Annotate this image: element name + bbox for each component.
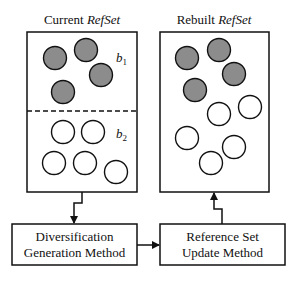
open-solution-circle: [52, 121, 75, 144]
open-solution-circle: [43, 152, 66, 175]
filled-solution-circle: [176, 47, 199, 70]
reference-update-line1: Reference Set: [186, 229, 259, 244]
arrow-to-diversification: [74, 192, 82, 223]
open-solution-circle: [223, 136, 246, 159]
filled-solution-circle: [223, 63, 246, 86]
filled-solution-circle: [184, 79, 207, 102]
reference-update-line2: Update Method: [182, 245, 264, 260]
filled-solution-circle: [44, 47, 67, 70]
open-solution-circle: [74, 152, 97, 175]
b2-label: b2: [116, 126, 127, 143]
filled-solution-circle: [52, 81, 75, 104]
scatter-search-diagram: Current RefSet b1 b2 Rebuilt RefSet Dive…: [0, 0, 299, 283]
filled-solution-circle: [208, 39, 231, 62]
open-solution-circle: [208, 103, 231, 126]
open-solution-circle: [82, 121, 105, 144]
current-refset-title: Current RefSet: [44, 12, 121, 27]
diversification-line2: Generation Method: [24, 245, 126, 260]
open-solution-circle: [105, 161, 128, 184]
b1-label: b1: [116, 50, 127, 67]
rebuilt-open-solutions: [176, 96, 262, 175]
b2-solutions: [43, 121, 128, 184]
open-solution-circle: [176, 127, 199, 150]
diversification-line1: Diversification: [36, 229, 114, 244]
rebuilt-refset-title: Rebuilt RefSet: [177, 12, 252, 27]
arrow-to-rebuilt-refset: [214, 193, 222, 224]
open-solution-circle: [200, 152, 223, 175]
open-solution-circle: [239, 96, 262, 119]
filled-solution-circle: [90, 64, 113, 87]
filled-solution-circle: [75, 39, 98, 62]
rebuilt-filled-solutions: [176, 39, 246, 102]
b1-solutions: [44, 39, 113, 104]
